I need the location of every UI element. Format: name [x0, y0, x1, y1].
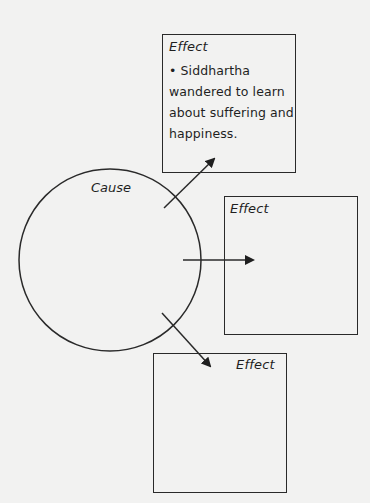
effect-1-line: about suffering and — [169, 102, 294, 123]
cause-circle — [19, 169, 201, 351]
effect-1-line: wandered to learn — [169, 81, 294, 102]
effect-1-line: • Siddhartha — [169, 60, 294, 81]
cause-effect-diagram: Cause Effect • Siddhartha wandered to le… — [0, 0, 370, 503]
effect-1-line: happiness. — [169, 123, 294, 144]
effect-box-2: Effect — [224, 196, 358, 335]
effect-box-3: Effect — [153, 353, 287, 493]
effect-2-title: Effect — [230, 201, 269, 216]
effect-1-title: Effect — [169, 39, 208, 54]
effect-box-1: Effect • Siddhartha wandered to learn ab… — [162, 34, 296, 173]
cause-label: Cause — [91, 180, 131, 195]
effect-1-text: • Siddhartha wandered to learn about suf… — [169, 60, 294, 144]
effect-3-title: Effect — [236, 357, 275, 372]
